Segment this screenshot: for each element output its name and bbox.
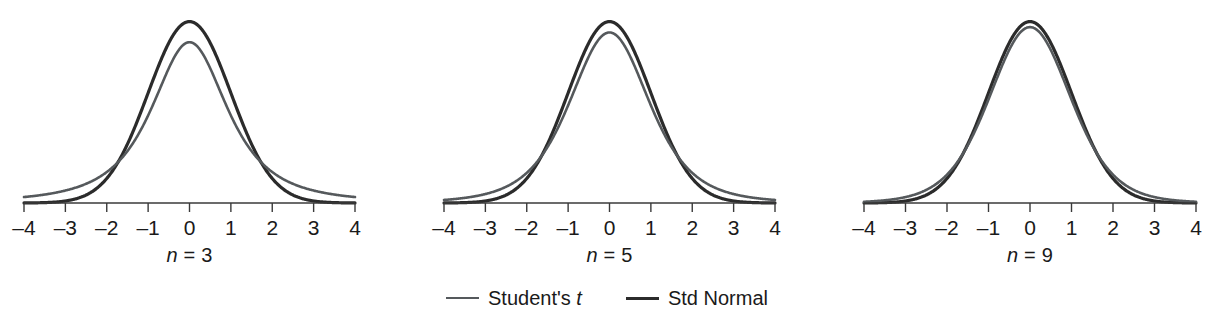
chart-legend: Student's tStd Normal	[0, 283, 1214, 313]
x-tick-label: 0	[1024, 217, 1036, 239]
panel-row: –4–3–2–101234n = 3–4–3–2–101234n = 5–4–3…	[0, 0, 1214, 276]
x-tick-label: 3	[728, 217, 740, 239]
x-tick-label: 4	[769, 217, 781, 239]
x-tick-label: –3	[54, 217, 77, 239]
x-tick-label: 1	[225, 217, 237, 239]
x-tick-label: 0	[184, 217, 196, 239]
legend-item: Student's t	[446, 287, 582, 309]
x-tick-label: 1	[645, 217, 657, 239]
legend-line-swatch	[626, 297, 659, 300]
panel-caption-value: = 3	[178, 244, 213, 266]
x-tick-label: –3	[474, 217, 497, 239]
x-tick-label: 4	[1190, 217, 1202, 239]
x-tick-label: 1	[1066, 217, 1078, 239]
curve-standard-normal	[24, 22, 355, 203]
distribution-panel-n-3: –4–3–2–101234n = 3	[0, 0, 385, 276]
x-tick-label: –1	[556, 217, 579, 239]
x-tick-label: 2	[686, 217, 698, 239]
curve-standard-normal	[444, 22, 775, 203]
distribution-panel-n-5: –4–3–2–101234n = 5	[420, 0, 805, 276]
panel-plot-area	[840, 0, 1214, 240]
figure-root: –4–3–2–101234n = 3–4–3–2–101234n = 5–4–3…	[0, 0, 1214, 320]
legend-label: Student's t	[488, 287, 582, 309]
x-tick-label: 3	[1149, 217, 1161, 239]
panel-caption-variable: n	[1007, 244, 1018, 266]
x-tick-label: –1	[136, 217, 159, 239]
x-tick-label: –4	[432, 217, 455, 239]
panel-plot-area	[420, 0, 805, 240]
panel-caption: n = 3	[0, 243, 379, 267]
x-tick-label: –2	[515, 217, 538, 239]
x-tick-label: –2	[95, 217, 118, 239]
panel-caption-variable: n	[166, 244, 177, 266]
x-tick-label: 2	[1107, 217, 1119, 239]
panel-caption-value: = 9	[1018, 244, 1053, 266]
panel-caption-value: = 5	[598, 244, 633, 266]
x-tick-label: –1	[977, 217, 1000, 239]
panel-plot-area	[0, 0, 385, 240]
x-tick-label: 0	[604, 217, 616, 239]
distribution-panel-n-9: –4–3–2–101234n = 9	[840, 0, 1214, 276]
x-tick-label: 3	[308, 217, 320, 239]
x-tick-label: –4	[12, 217, 35, 239]
x-tick-label: –3	[894, 217, 917, 239]
x-tick-label: –4	[852, 217, 875, 239]
panel-caption: n = 9	[840, 243, 1214, 267]
legend-label-variable: t	[576, 287, 582, 309]
legend-label: Std Normal	[668, 287, 768, 309]
curve-students-t	[444, 32, 775, 199]
x-tick-label: –2	[935, 217, 958, 239]
legend-item: Std Normal	[626, 287, 768, 309]
panel-caption: n = 5	[420, 243, 799, 267]
x-tick-label: 4	[349, 217, 361, 239]
curve-students-t	[864, 27, 1196, 202]
x-tick-label: 2	[266, 217, 278, 239]
panel-caption-variable: n	[586, 244, 597, 266]
legend-line-swatch	[446, 297, 479, 299]
curve-standard-normal	[864, 22, 1196, 203]
curve-students-t	[24, 42, 355, 197]
